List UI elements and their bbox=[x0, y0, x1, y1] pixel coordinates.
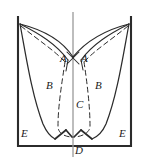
label-D: D bbox=[75, 145, 83, 156]
label-B-left: B bbox=[46, 80, 53, 91]
label-E-right: E bbox=[119, 128, 126, 139]
label-C: C bbox=[76, 99, 83, 110]
label-E-left: E bbox=[21, 128, 28, 139]
label-A-left: A bbox=[60, 53, 67, 64]
label-B-right: B bbox=[95, 80, 102, 91]
right-notch-edge bbox=[81, 130, 92, 139]
figure-container: A A B B C D E E bbox=[0, 0, 146, 163]
label-A-right: A bbox=[81, 53, 88, 64]
left-notch-edge bbox=[55, 130, 66, 139]
left-wing-dashed-vein bbox=[58, 62, 71, 137]
